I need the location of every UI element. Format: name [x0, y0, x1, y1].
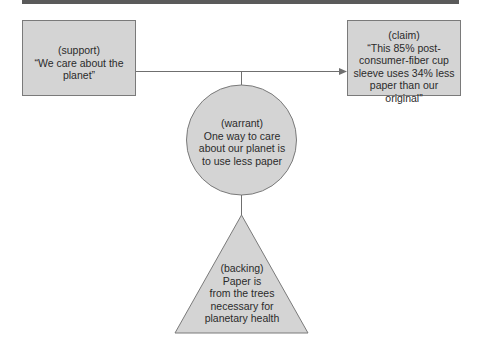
- backing-line: necessary for: [186, 300, 298, 313]
- warrant-line: about our planet is: [186, 142, 298, 155]
- backing-line: planetary health: [186, 312, 298, 325]
- warrant-label: (warrant): [186, 117, 298, 130]
- support-node: (support) “We care about the planet”: [22, 44, 136, 82]
- support-line: “We care about the: [22, 57, 136, 70]
- arrowhead-icon: [339, 68, 347, 75]
- claim-label: (claim): [347, 29, 461, 42]
- claim-line: consumer-fiber cup: [347, 54, 461, 67]
- backing-line: Paper is: [186, 275, 298, 288]
- backing-label: (backing): [186, 262, 298, 275]
- claim-line: original”: [347, 92, 461, 105]
- support-label: (support): [22, 44, 136, 57]
- backing-node: (backing) Paper is from the trees necess…: [186, 262, 298, 325]
- claim-line: paper than our: [347, 79, 461, 92]
- claim-line: sleeve uses 34% less: [347, 67, 461, 80]
- backing-line: from the trees: [186, 287, 298, 300]
- warrant-line: One way to care: [186, 130, 298, 143]
- warrant-node: (warrant) One way to care about our plan…: [186, 117, 298, 167]
- warrant-line: to use less paper: [186, 155, 298, 168]
- claim-line: “This 85% post-: [347, 42, 461, 55]
- claim-node: (claim) “This 85% post- consumer-fiber c…: [347, 29, 461, 105]
- support-line: planet”: [22, 69, 136, 82]
